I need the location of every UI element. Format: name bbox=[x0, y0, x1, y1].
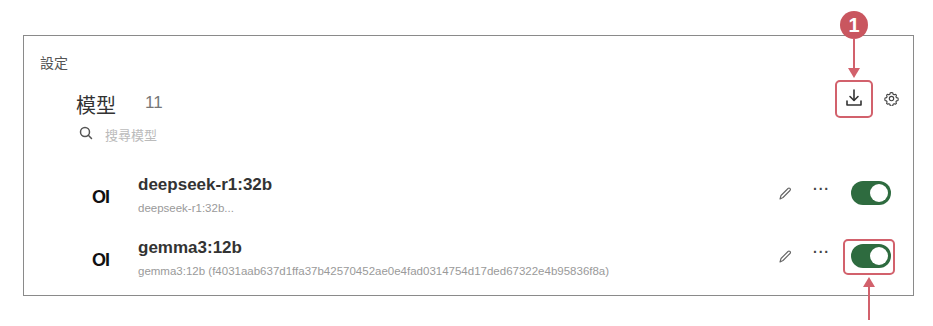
model-name: deepseek-r1:32b bbox=[138, 175, 272, 195]
model-enabled-toggle[interactable] bbox=[851, 181, 891, 205]
model-logo: OI bbox=[92, 187, 109, 208]
gear-icon bbox=[884, 91, 899, 110]
annotation-arrow bbox=[868, 286, 870, 320]
step-badge: 1 bbox=[840, 11, 868, 39]
pencil-icon bbox=[777, 251, 793, 268]
search-icon bbox=[79, 126, 93, 144]
download-highlight-box bbox=[835, 80, 873, 118]
edit-model-button[interactable] bbox=[777, 249, 793, 265]
breadcrumb: 設定 bbox=[40, 52, 68, 72]
toggle-knob bbox=[870, 184, 888, 202]
settings-button[interactable] bbox=[883, 92, 899, 108]
arrow-head-icon bbox=[848, 68, 860, 78]
model-row[interactable]: OI deepseek-r1:32b deepseek-r1:32b... ··… bbox=[24, 169, 913, 229]
search-input[interactable] bbox=[105, 128, 405, 143]
settings-panel: 設定 模型 11 OI deepseek-r1:32b deepseek-r1:… bbox=[23, 35, 914, 296]
edit-model-button[interactable] bbox=[777, 186, 793, 202]
more-options-button[interactable]: ··· bbox=[813, 244, 830, 260]
model-description: deepseek-r1:32b... bbox=[138, 202, 234, 214]
model-row[interactable]: OI gemma3:12b gemma3:12b (f4031aab637d1f… bbox=[24, 232, 913, 292]
search-bar bbox=[79, 126, 405, 144]
model-count: 11 bbox=[145, 93, 163, 113]
model-description: gemma3:12b (f4031aab637d1ffa37b42570452a… bbox=[138, 265, 609, 277]
page-title: 模型 bbox=[76, 90, 116, 119]
toggle-highlight-box bbox=[843, 239, 895, 275]
annotation-arrow bbox=[853, 38, 855, 70]
model-logo: OI bbox=[92, 250, 109, 271]
pencil-icon bbox=[777, 188, 793, 205]
model-name: gemma3:12b bbox=[138, 238, 242, 258]
more-options-button[interactable]: ··· bbox=[813, 181, 830, 197]
